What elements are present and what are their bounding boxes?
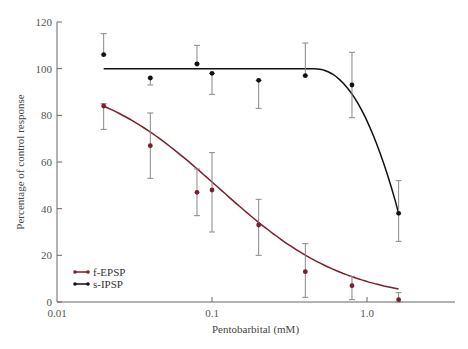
y-tick-label: 80 (41, 109, 53, 121)
legend-label-f-epsp: f-EPSP (93, 266, 125, 278)
f-epsp-fit-curve (104, 106, 399, 289)
f-epsp-data-point (396, 297, 401, 302)
x-tick-label: 0.1 (205, 307, 219, 319)
s-ipsp-data-point (396, 211, 401, 216)
f-epsp-data-point (303, 269, 308, 274)
y-tick-label: 40 (41, 203, 53, 215)
y-tick-label: 100 (36, 63, 53, 75)
s-ipsp-fit-curve (104, 69, 399, 214)
f-epsp-data-point (195, 190, 200, 195)
s-ipsp-data-point (350, 83, 355, 88)
y-axis-title: Percentage of control response (14, 94, 26, 229)
y-tick-label: 60 (41, 156, 53, 168)
x-tick-label: 1.0 (360, 307, 374, 319)
f-epsp-data-point (148, 143, 153, 148)
x-tick-label: 0.01 (47, 307, 66, 319)
chart: 0204060801001200.010.11.0 f-EPSP s-IPSP … (0, 0, 468, 349)
s-ipsp-data-point (195, 62, 200, 67)
legend-marker-s-ipsp (73, 282, 77, 286)
legend-label-s-ipsp: s-IPSP (93, 278, 123, 290)
legend-marker-f-epsp (86, 270, 90, 274)
s-ipsp-data-point (256, 78, 261, 83)
f-epsp-data-point (101, 104, 106, 109)
legend-marker-f-epsp (73, 270, 77, 274)
s-ipsp-data-point (210, 71, 215, 76)
legend-marker-s-ipsp (86, 282, 90, 286)
s-ipsp-data-point (148, 76, 153, 81)
s-ipsp-data-point (101, 52, 106, 57)
y-tick-label: 120 (36, 16, 53, 28)
series-layer (101, 34, 402, 302)
f-epsp-data-point (210, 188, 215, 193)
f-epsp-data-point (350, 283, 355, 288)
s-ipsp-data-point (303, 73, 308, 78)
y-tick-label: 20 (41, 249, 53, 261)
f-epsp-data-point (256, 223, 261, 228)
x-axis-title: Pentobarbital (mM) (212, 323, 299, 336)
legend: f-EPSP s-IPSP (73, 266, 125, 290)
